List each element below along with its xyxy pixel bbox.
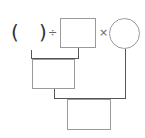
open-paren: ( bbox=[11, 22, 19, 42]
bracket-right-vertical bbox=[78, 48, 79, 59]
divide-sign: ÷ bbox=[48, 27, 57, 38]
connector-right-vertical bbox=[125, 49, 126, 99]
quotient-box[interactable] bbox=[32, 59, 75, 89]
multiply-sign: × bbox=[99, 27, 108, 38]
result-box[interactable] bbox=[67, 99, 111, 130]
multiplier-circle[interactable] bbox=[109, 18, 140, 49]
divisor-box[interactable] bbox=[60, 18, 96, 48]
close-paren: ) bbox=[39, 22, 47, 42]
